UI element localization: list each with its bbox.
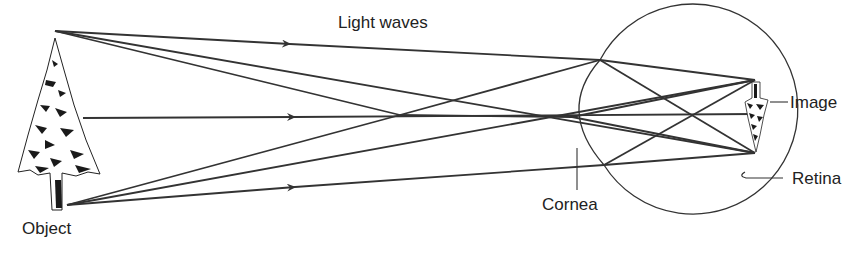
label-retina: Retina [792,170,841,187]
tree-image-icon [745,82,768,152]
diagram-canvas [0,0,865,253]
title-light-waves: Light waves [338,14,428,31]
label-object: Object [22,220,71,237]
light-waves-eye-diagram: Light waves Object Cornea Image Retina [0,0,865,253]
label-cornea: Cornea [542,196,598,213]
tree-object-icon [18,38,100,210]
label-image: Image [790,94,837,111]
light-rays [55,31,755,205]
